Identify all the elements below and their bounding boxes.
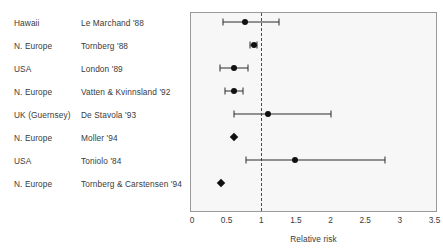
ci-lower-cap [246,157,247,164]
ci-upper-cap [257,42,258,49]
ci-upper-cap [248,65,249,72]
confidence-interval-line [234,114,331,115]
ci-lower-cap [223,19,224,26]
x-tick-label: 3 [398,215,403,225]
forest-row [0,61,443,75]
forest-row [0,176,443,190]
point-estimate-marker [231,88,237,94]
confidence-interval-line [223,22,279,23]
ci-lower-cap [220,65,221,72]
ci-upper-cap [385,157,386,164]
point-estimate-marker [251,42,257,48]
forest-row [0,130,443,144]
ci-upper-cap [330,111,331,118]
x-tick-label: 2 [328,215,333,225]
ci-upper-cap [243,88,244,95]
point-estimate-marker [229,133,237,141]
point-estimate-marker [242,19,248,25]
x-tick-label: 0 [190,215,195,225]
forest-row [0,15,443,29]
point-estimate-marker [265,111,271,117]
x-tick-label: 2.5 [359,215,371,225]
x-tick-label: 3.5 [429,215,441,225]
point-estimate-marker [231,65,237,71]
forest-plot: HawaiiLe Marchand '88N. EuropeTornberg '… [0,0,443,252]
x-axis-title: Relative risk [190,234,437,244]
confidence-interval-line [246,160,385,161]
forest-row [0,38,443,52]
forest-row [0,107,443,121]
forest-row [0,153,443,167]
point-estimate-marker [217,179,225,187]
x-tick-label: 1.5 [290,215,302,225]
ci-upper-cap [279,19,280,26]
ci-lower-cap [233,111,234,118]
x-tick-label: 0.5 [221,215,233,225]
ci-lower-cap [225,88,226,95]
point-estimate-marker [292,157,298,163]
x-tick-label: 1 [259,215,264,225]
forest-row [0,84,443,98]
